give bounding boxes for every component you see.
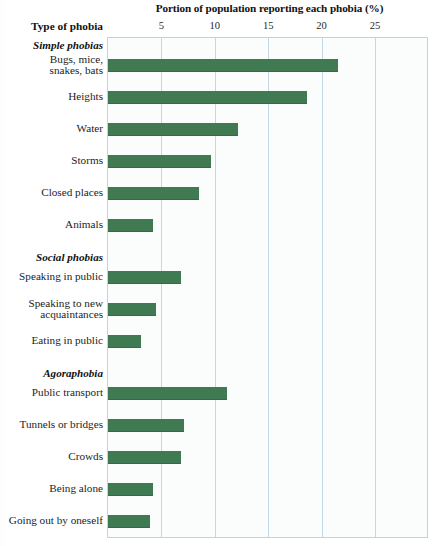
bar — [108, 387, 227, 400]
bar-row: Heights — [0, 89, 441, 113]
bar-row-label: Storms — [0, 155, 103, 167]
bar — [108, 123, 238, 136]
bar — [108, 483, 153, 496]
section-header-label: Agoraphobia — [0, 367, 103, 379]
bar-row-label: Crowds — [0, 451, 103, 463]
bar-row: Public transport — [0, 385, 441, 409]
bar — [108, 91, 307, 104]
bar-row: Closed places — [0, 185, 441, 209]
x-axis-tick-row: 510152025 — [0, 20, 441, 34]
x-axis-tick-label: 20 — [309, 20, 335, 31]
bar-row-label: Speaking in public — [0, 271, 103, 283]
bar-row-label: Animals — [0, 219, 103, 231]
bar-row: Crowds — [0, 449, 441, 473]
bar-row-label: Heights — [0, 91, 103, 103]
bar-row-label: Speaking to newacquaintances — [0, 298, 103, 321]
bar — [108, 59, 338, 72]
section-header-label: Simple phobias — [0, 39, 103, 51]
bar-row: Bugs, mice,snakes, bats — [0, 57, 441, 81]
x-axis-tick-label: 10 — [202, 20, 228, 31]
bar-row: Animals — [0, 217, 441, 241]
bar-row: Storms — [0, 153, 441, 177]
bar-row: Speaking in public — [0, 269, 441, 293]
bar-row-label-line2: acquaintances — [0, 309, 103, 320]
bar — [108, 303, 156, 316]
bar-row: Eating in public — [0, 333, 441, 357]
bar-row: Being alone — [0, 481, 441, 505]
bar-row-label: Being alone — [0, 483, 103, 495]
bar — [108, 515, 150, 528]
bar-row-label: Public transport — [0, 387, 103, 399]
bar — [108, 187, 199, 200]
bar-row-label: Tunnels or bridges — [0, 419, 103, 431]
phobia-bar-chart: Portion of population reporting each pho… — [0, 0, 441, 546]
x-axis-tick-label: 5 — [148, 20, 174, 31]
chart-rows: Simple phobiasBugs, mice,snakes, batsHei… — [0, 37, 441, 538]
x-axis-tick-label: 15 — [255, 20, 281, 31]
section-header-label: Social phobias — [0, 251, 103, 263]
bar-row: Going out by oneself — [0, 513, 441, 537]
bar-row-label: Eating in public — [0, 335, 103, 347]
bar-row-label: Water — [0, 123, 103, 135]
bar-row-label: Bugs, mice,snakes, bats — [0, 54, 103, 77]
chart-title: Portion of population reporting each pho… — [107, 2, 432, 14]
bar — [108, 219, 153, 232]
bar-row-label: Closed places — [0, 187, 103, 199]
bar-row-label-line2: snakes, bats — [0, 65, 103, 76]
x-axis-tick-label: 25 — [362, 20, 388, 31]
bar — [108, 419, 184, 432]
bar-row: Water — [0, 121, 441, 145]
bar — [108, 335, 141, 348]
bar-row-label: Going out by oneself — [0, 515, 103, 527]
bar — [108, 451, 181, 464]
bar — [108, 155, 211, 168]
bar-row: Speaking to newacquaintances — [0, 301, 441, 325]
bar-row: Tunnels or bridges — [0, 417, 441, 441]
bar — [108, 271, 181, 284]
